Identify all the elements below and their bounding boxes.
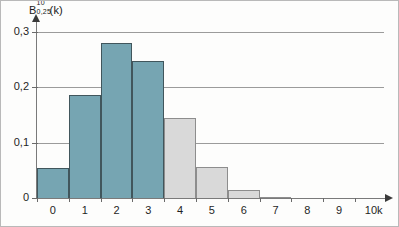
x-axis-tick xyxy=(260,198,261,202)
x-axis-tick xyxy=(196,198,197,202)
x-axis-tick-label: 4 xyxy=(170,204,190,216)
x-axis-tick-label: 3 xyxy=(138,204,158,216)
x-axis-tick-label: 8 xyxy=(297,204,317,216)
bar-k-3 xyxy=(132,61,164,199)
bar-k-0 xyxy=(37,168,69,199)
x-axis-tick xyxy=(228,198,229,202)
chart-title-superscript: 10 xyxy=(37,0,45,6)
y-axis-tick-label: 0 xyxy=(1,191,29,203)
x-axis-tick-label: 6 xyxy=(234,204,254,216)
bar-k-2 xyxy=(101,43,133,199)
x-axis-tick xyxy=(69,198,70,202)
binomial-distribution-chart: B100,25(k) 00,10,20,3 012345678910 k xyxy=(0,0,399,227)
x-axis-tick-label: 9 xyxy=(329,204,349,216)
y-axis-arrow-icon xyxy=(32,14,40,22)
y-axis-tick xyxy=(32,87,38,88)
x-axis-tick xyxy=(101,198,102,202)
x-axis-tick-label: 1 xyxy=(75,204,95,216)
chart-title-indices: 100,25 xyxy=(37,3,50,14)
x-axis-tick xyxy=(355,198,356,202)
y-axis-tick-label: 0,3 xyxy=(1,25,29,37)
y-axis-tick xyxy=(32,143,38,144)
x-axis-tick xyxy=(37,198,38,202)
x-axis-line xyxy=(37,198,386,199)
x-axis-arrow-icon xyxy=(385,194,393,202)
x-axis-tick xyxy=(164,198,165,202)
bar-k-5 xyxy=(196,167,228,199)
x-axis-tick-label: 7 xyxy=(266,204,286,216)
x-axis-tick xyxy=(132,198,133,202)
x-axis-tick xyxy=(323,198,324,202)
x-axis-tick xyxy=(291,198,292,202)
y-axis-tick-label: 0,1 xyxy=(1,136,29,148)
bar-k-1 xyxy=(69,95,101,199)
bars-group xyxy=(37,21,389,199)
y-axis-line xyxy=(36,21,37,199)
x-axis-tick-label: 0 xyxy=(43,204,63,216)
x-axis-tick-label: 5 xyxy=(202,204,222,216)
bar-k-4 xyxy=(164,118,196,199)
x-axis-tick-label: 2 xyxy=(107,204,127,216)
y-axis-tick xyxy=(32,32,38,33)
x-axis-label: k xyxy=(377,204,383,216)
y-axis-tick-label: 0,2 xyxy=(1,80,29,92)
chart-title-argument: (k) xyxy=(50,4,63,16)
